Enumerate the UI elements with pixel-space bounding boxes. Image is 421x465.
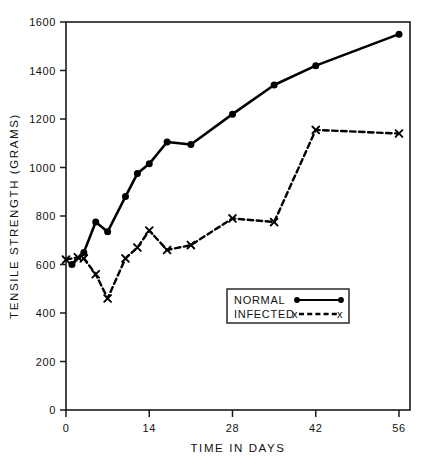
x-tick-label-28: 28 <box>226 422 239 434</box>
y-tick-label-0: 0 <box>49 404 56 416</box>
legend-x-marker-left: x <box>292 308 298 320</box>
y-tick-label-1600: 1600 <box>29 16 56 28</box>
y-tick-label-600: 600 <box>36 259 56 271</box>
y-tick-label-1400: 1400 <box>29 65 56 77</box>
tensile-strength-line-chart: 02004006008001000120014001600 014284256 … <box>0 0 421 465</box>
x-tick-label-42: 42 <box>309 422 322 434</box>
legend-label-normal: NORMAL <box>234 294 285 306</box>
x-tick-label-14: 14 <box>143 422 156 434</box>
y-tick-label-200: 200 <box>36 356 56 368</box>
legend-x-marker-right: x <box>337 308 343 320</box>
data-point-marker <box>122 193 129 200</box>
data-point-marker <box>271 82 278 89</box>
y-tick-label-1000: 1000 <box>29 162 56 174</box>
data-point-marker <box>164 139 171 146</box>
chart-figure: 02004006008001000120014001600 014284256 … <box>0 0 421 465</box>
data-point-marker <box>104 228 111 235</box>
data-point-marker <box>396 31 403 38</box>
y-tick-label-400: 400 <box>36 307 56 319</box>
legend-label-infected: INFECTED <box>234 308 295 320</box>
y-tick-label-800: 800 <box>36 210 56 222</box>
data-point-marker <box>312 62 319 69</box>
chart-legend: NORMAL INFECTED x x <box>227 289 349 323</box>
x-axis-title: TIME IN DAYS <box>190 442 285 454</box>
y-axis-title: TENSILE STRENGTH (GRAMS) <box>8 113 20 319</box>
data-point-marker <box>146 160 153 167</box>
x-tick-label-56: 56 <box>392 422 405 434</box>
data-point-marker <box>92 219 99 226</box>
x-tick-label-0: 0 <box>63 422 70 434</box>
y-tick-label-1200: 1200 <box>29 113 56 125</box>
data-point-marker <box>134 170 141 177</box>
data-point-marker <box>187 141 194 148</box>
data-point-marker <box>229 111 236 118</box>
